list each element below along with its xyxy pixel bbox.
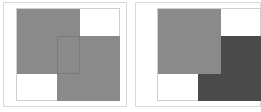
overlap-outline [57,36,80,74]
right-panel [135,2,261,107]
rect-a [158,9,221,74]
left-panel [3,2,127,107]
